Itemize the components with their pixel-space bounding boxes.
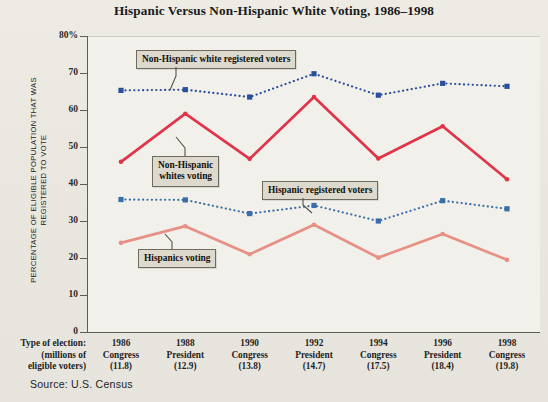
- data-point: [311, 203, 316, 208]
- callout-hispanic-registered: Hispanic registered voters: [262, 181, 378, 200]
- callout-white-registered-text: Non-Hispanic white registered voters: [142, 54, 290, 66]
- data-point: [118, 88, 123, 93]
- data-point: [119, 160, 124, 165]
- data-point: [312, 95, 317, 100]
- data-point: [183, 111, 188, 116]
- data-point: [247, 252, 252, 257]
- data-point: [505, 177, 510, 182]
- data-point: [440, 198, 445, 203]
- data-point: [376, 156, 381, 161]
- data-point: [119, 241, 124, 246]
- data-point: [440, 81, 445, 86]
- series-line-0: [121, 74, 507, 97]
- data-point: [312, 222, 317, 227]
- data-point: [183, 224, 188, 229]
- data-point: [183, 87, 188, 92]
- callout-white-voting-text: whites voting: [158, 171, 213, 183]
- data-point: [504, 84, 509, 89]
- callout-hispanic-registered-text: Hispanic registered voters: [268, 185, 372, 197]
- callout-hispanic-voting-text: Hispanics voting: [144, 253, 210, 265]
- data-point: [247, 157, 252, 162]
- callout-white-voting-text: Non-Hispanic: [158, 160, 213, 172]
- data-point: [311, 71, 316, 76]
- data-point: [440, 232, 445, 237]
- data-point: [505, 258, 510, 263]
- series-line-2: [121, 200, 507, 221]
- callout-white-voting: Non-Hispanicwhites voting: [152, 156, 219, 187]
- data-point: [440, 124, 445, 129]
- callout-hispanic-voting: Hispanics voting: [138, 249, 216, 268]
- data-point: [183, 197, 188, 202]
- data-point: [376, 218, 381, 223]
- data-point: [118, 197, 123, 202]
- data-point: [504, 206, 509, 211]
- data-point: [376, 255, 381, 260]
- callout-white-registered: Non-Hispanic white registered voters: [136, 50, 296, 69]
- data-point: [247, 211, 252, 216]
- data-point: [247, 94, 252, 99]
- data-point: [376, 93, 381, 98]
